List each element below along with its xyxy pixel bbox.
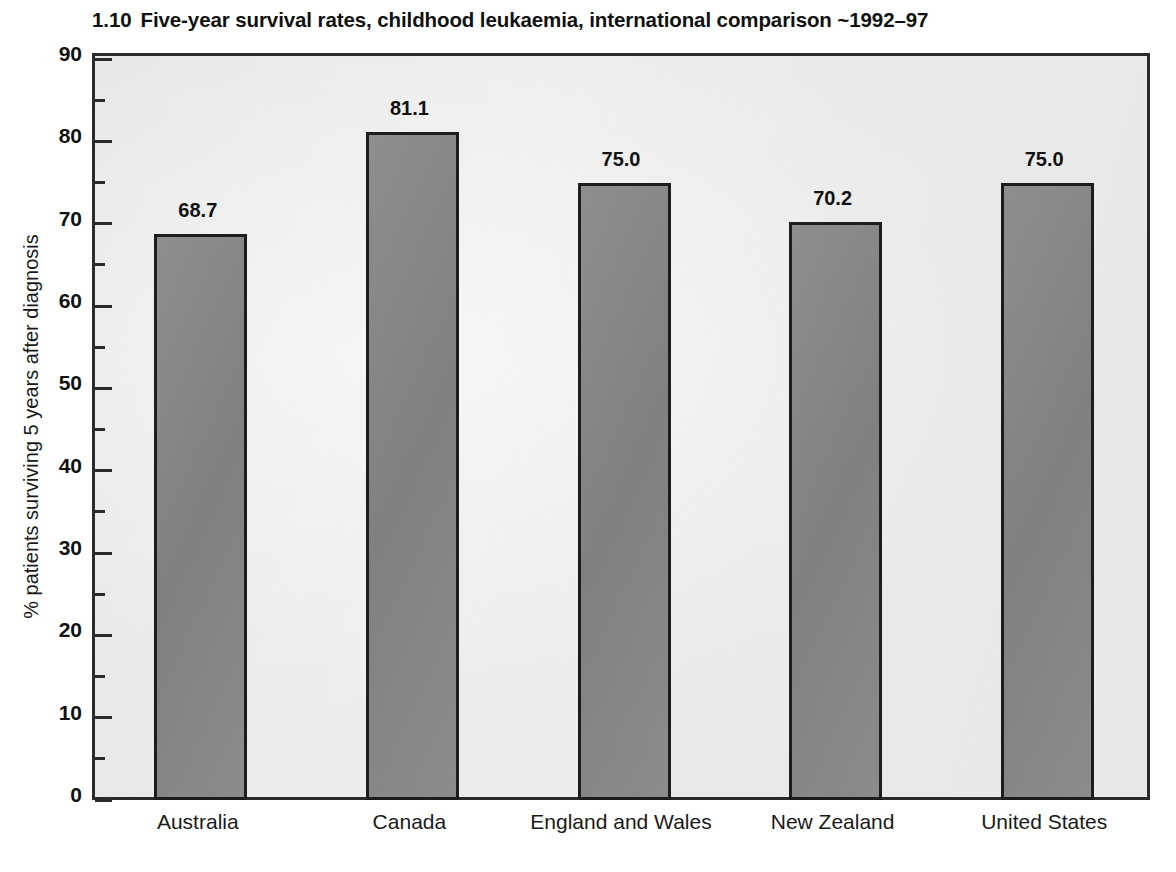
chart-title-text: Five-year survival rates, childhood leuk… xyxy=(141,8,929,31)
y-tick-label: 50 xyxy=(24,371,82,395)
x-tick-label: Australia xyxy=(103,809,293,835)
bar xyxy=(789,222,882,800)
bar xyxy=(1001,183,1094,801)
bar-value-label: 75.0 xyxy=(984,148,1104,171)
y-tick-label: 60 xyxy=(24,289,82,313)
y-tick-major xyxy=(95,634,112,637)
y-tick-label: 70 xyxy=(24,207,82,231)
y-tick-minor xyxy=(95,593,105,596)
y-tick-minor xyxy=(95,675,105,678)
y-tick-major xyxy=(95,140,112,143)
y-tick-major xyxy=(95,58,112,61)
bar xyxy=(366,132,459,800)
x-tick-label: Canada xyxy=(314,809,504,835)
y-tick-label: 20 xyxy=(24,618,82,642)
chart-title: 1.10Five-year survival rates, childhood … xyxy=(92,8,928,32)
y-tick-minor xyxy=(95,263,105,266)
y-tick-label: 40 xyxy=(24,454,82,478)
bar-value-label: 81.1 xyxy=(349,97,469,120)
y-tick-major xyxy=(95,799,112,802)
chart-title-number: 1.10 xyxy=(92,8,132,31)
x-tick-label: England and Wales xyxy=(526,809,716,835)
y-tick-major xyxy=(95,469,112,472)
y-tick-label: 90 xyxy=(24,42,82,66)
y-tick-label: 0 xyxy=(24,783,82,807)
y-tick-minor xyxy=(95,346,105,349)
y-tick-major xyxy=(95,552,112,555)
y-tick-minor xyxy=(95,757,105,760)
x-tick-label: New Zealand xyxy=(738,809,928,835)
x-tick-label: United States xyxy=(949,809,1139,835)
y-tick-minor xyxy=(95,99,105,102)
y-tick-label: 10 xyxy=(24,701,82,725)
y-tick-label: 30 xyxy=(24,536,82,560)
y-tick-major xyxy=(95,305,112,308)
y-tick-major xyxy=(95,387,112,390)
y-tick-major xyxy=(95,716,112,719)
y-tick-minor xyxy=(95,510,105,513)
bar-value-label: 75.0 xyxy=(561,148,681,171)
bar-value-label: 70.2 xyxy=(773,187,893,210)
y-tick-minor xyxy=(95,428,105,431)
bar-value-label: 68.7 xyxy=(138,199,258,222)
bar xyxy=(154,234,247,800)
y-tick-major xyxy=(95,222,112,225)
bar xyxy=(578,183,671,801)
y-tick-minor xyxy=(95,181,105,184)
y-tick-label: 80 xyxy=(24,124,82,148)
y-axis-title: % patients surviving 5 years after diagn… xyxy=(14,53,48,800)
